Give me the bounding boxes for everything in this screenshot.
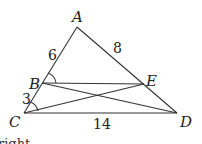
segment-CE: [24, 84, 144, 113]
length-AB: 6: [48, 47, 57, 63]
label-D: D: [179, 113, 192, 131]
triangle-diagram: A B C D E 6 8 3 14 right: [0, 0, 202, 144]
label-C: C: [9, 113, 21, 131]
length-CD: 14: [93, 116, 111, 132]
segment-AD: [77, 27, 177, 113]
angle-mark-B: [48, 73, 56, 83]
segment-BE: [42, 83, 144, 84]
length-BC: 3: [22, 91, 31, 107]
label-A: A: [70, 8, 83, 26]
label-E: E: [145, 72, 157, 90]
length-AE: 8: [113, 40, 122, 56]
segment-AC: [24, 27, 77, 113]
footer-text-cut: right: [0, 136, 31, 144]
